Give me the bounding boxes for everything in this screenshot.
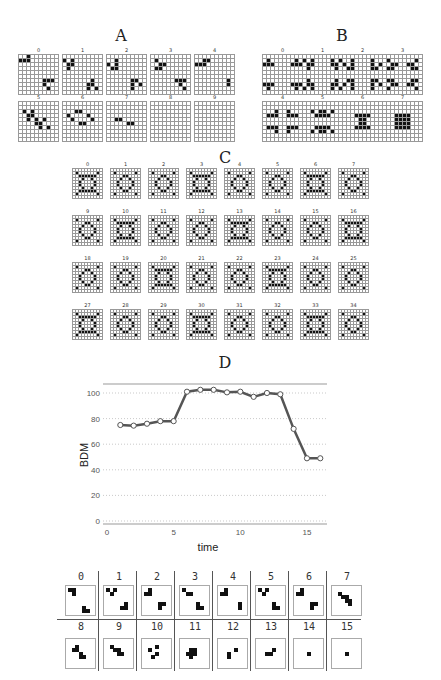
strip-divider — [98, 571, 99, 621]
svg-text:40: 40 — [91, 466, 100, 475]
strip-index-label: 13 — [252, 621, 290, 632]
svg-text:100: 100 — [87, 389, 101, 398]
strip-state-4: 4 — [214, 571, 252, 621]
strip-state-box — [103, 585, 134, 616]
strip-divider — [250, 621, 251, 671]
strip-state-2: 2 — [138, 571, 176, 621]
strip-divider — [212, 621, 213, 671]
strip-state-3: 3 — [176, 571, 214, 621]
strip-divider — [288, 621, 289, 671]
strip-divider — [136, 571, 137, 621]
svg-text:0: 0 — [105, 528, 110, 537]
strip-index-label: 11 — [176, 621, 214, 632]
strip-state-box — [331, 585, 362, 616]
strip-state-box — [255, 585, 286, 616]
x-axis-label: time — [198, 541, 219, 553]
strip-divider — [326, 621, 327, 671]
strip-divider — [174, 621, 175, 671]
strip-state-10: 10 — [138, 621, 176, 671]
strip-state-12: 12 — [214, 621, 252, 671]
strip-index-label: 4 — [214, 571, 252, 582]
strip-index-label: 1 — [100, 571, 138, 582]
strip-state-0: 0 — [62, 571, 100, 621]
strip-state-box — [331, 638, 362, 669]
strip-state-box — [255, 638, 286, 669]
strip-state-box — [179, 585, 210, 616]
strip-state-box — [293, 585, 324, 616]
svg-text:80: 80 — [91, 415, 100, 424]
strip-index-label: 14 — [290, 621, 328, 632]
strip-state-14: 14 — [290, 621, 328, 671]
strip-state-box — [141, 638, 172, 669]
strip-row-divider — [57, 619, 361, 620]
strip-divider — [326, 571, 327, 621]
strip-state-7: 7 — [328, 571, 366, 621]
strip-divider — [288, 571, 289, 621]
strip-divider — [250, 571, 251, 621]
strip-state-5: 5 — [252, 571, 290, 621]
strip-index-label: 2 — [138, 571, 176, 582]
strip-state-6: 6 — [290, 571, 328, 621]
svg-text:60: 60 — [91, 440, 100, 449]
strip-index-label: 8 — [62, 621, 100, 632]
strip-state-15: 15 — [328, 621, 366, 671]
strip-index-label: 10 — [138, 621, 176, 632]
strip-state-box — [141, 585, 172, 616]
svg-text:0: 0 — [96, 517, 101, 526]
strip-index-label: 5 — [252, 571, 290, 582]
strip-divider — [174, 571, 175, 621]
strip-index-label: 12 — [214, 621, 252, 632]
strip-state-11: 11 — [176, 621, 214, 671]
strip-index-label: 6 — [290, 571, 328, 582]
strip-state-9: 9 — [100, 621, 138, 671]
strip-state-box — [65, 638, 96, 669]
strip-index-label: 0 — [62, 571, 100, 582]
strip-divider — [98, 621, 99, 671]
bdm-series — [118, 387, 323, 461]
chart-gridlines — [103, 384, 327, 524]
x-axis-ticks: 051015 — [105, 528, 312, 537]
strip-state-box — [217, 585, 248, 616]
strip-state-13: 13 — [252, 621, 290, 671]
strip-state-box — [293, 638, 324, 669]
strip-state-8: 8 — [62, 621, 100, 671]
strip-state-box — [217, 638, 248, 669]
strip-index-label: 15 — [328, 621, 366, 632]
strip-divider — [136, 621, 137, 671]
strip-index-label: 7 — [328, 571, 366, 582]
strip-state-box — [65, 585, 96, 616]
svg-text:20: 20 — [91, 491, 100, 500]
strip-state-1: 1 — [100, 571, 138, 621]
svg-text:10: 10 — [236, 528, 245, 537]
bdm-line-chart: 020406080100 051015 time BDM — [0, 0, 441, 560]
svg-text:5: 5 — [171, 528, 176, 537]
strip-state-box — [103, 638, 134, 669]
strip-divider — [212, 571, 213, 621]
svg-text:15: 15 — [302, 528, 311, 537]
strip-state-box — [179, 638, 210, 669]
strip-index-label: 9 — [100, 621, 138, 632]
strip-index-label: 3 — [176, 571, 214, 582]
y-axis-label: BDM — [78, 443, 90, 467]
